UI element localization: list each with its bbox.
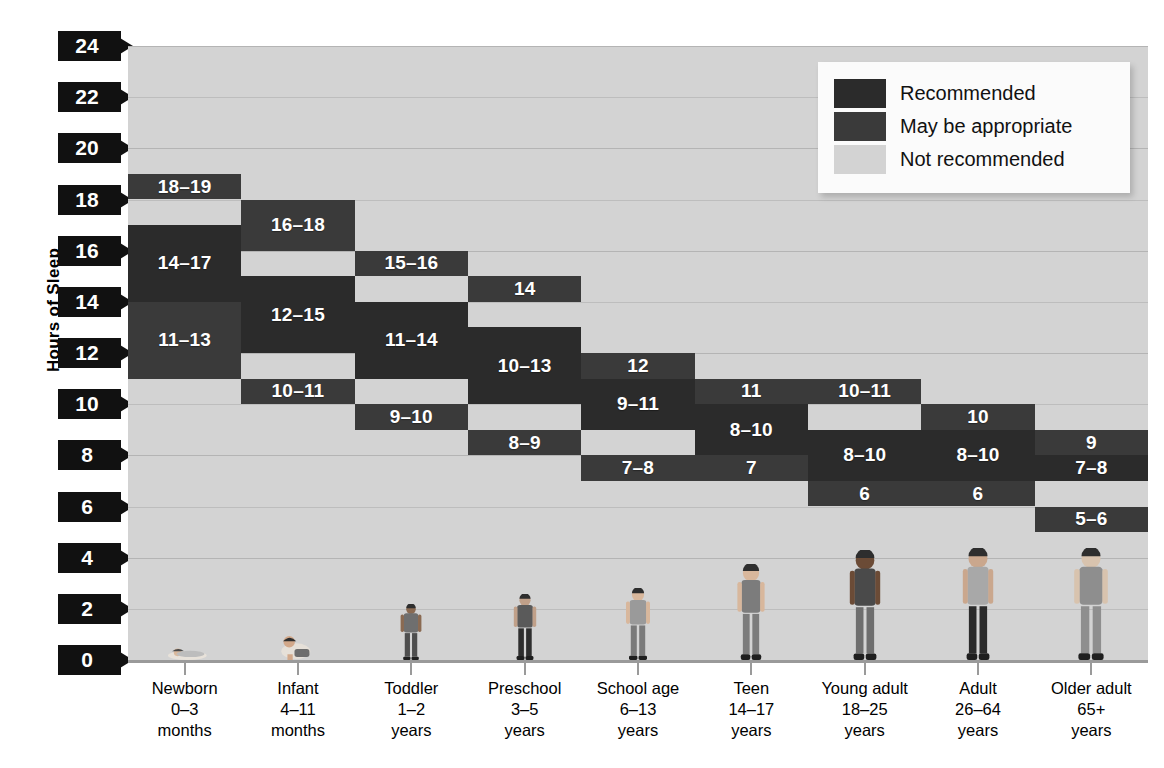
category-unit: years <box>355 720 468 741</box>
legend-item-not-recommended: Not recommended <box>834 145 1114 174</box>
y-axis-tick-18: 18 <box>58 185 120 215</box>
category-name: Older adult <box>1035 678 1148 699</box>
category-unit: years <box>921 720 1034 741</box>
bar-segment: 10–11 <box>241 379 354 405</box>
swatch-recommended-icon <box>834 79 886 108</box>
bar-segment: 8–9 <box>468 430 581 456</box>
bar-column: 129–117–8 <box>581 46 694 660</box>
crawling-infant-figure <box>276 634 320 660</box>
y-axis-tick-24: 24 <box>58 31 120 61</box>
older-adult-man-figure <box>1070 548 1112 660</box>
swatch-not-recommended-icon <box>834 145 886 174</box>
category-unit: years <box>695 720 808 741</box>
legend-label-may-be-appropriate: May be appropriate <box>900 115 1072 138</box>
bar-segment: 10–13 <box>468 327 581 404</box>
legend-item-may-be-appropriate: May be appropriate <box>834 112 1114 141</box>
bar-segment: 7 <box>695 455 808 481</box>
bar-segment: 11–13 <box>128 302 241 379</box>
swatch-may-be-appropriate-icon <box>834 112 886 141</box>
category-name: Preschool <box>468 678 581 699</box>
bar-segment: 8–10 <box>808 430 921 481</box>
category-age: 6–13 <box>581 699 694 720</box>
bar-segment: 11 <box>695 379 808 405</box>
bar-segment: 9 <box>1035 430 1148 456</box>
school-age-child-figure <box>623 588 653 660</box>
y-axis-tick-8: 8 <box>58 440 120 470</box>
x-axis-tick <box>1090 661 1092 675</box>
category-unit: years <box>468 720 581 741</box>
bar-column: 1410–138–9 <box>468 46 581 660</box>
teen-girl-figure <box>734 564 768 660</box>
bar-segment: 8–10 <box>921 430 1034 481</box>
category-unit: months <box>128 720 241 741</box>
category-name: School age <box>581 678 694 699</box>
category-age: 3–5 <box>468 699 581 720</box>
bar-column: 15–1611–149–10 <box>355 46 468 660</box>
y-axis-tick-14: 14 <box>58 287 120 317</box>
bar-segment: 5–6 <box>1035 507 1148 533</box>
bar-segment: 15–16 <box>355 251 468 277</box>
sleep-recommendations-chart: Hours of Sleep 242220181614121086420 18–… <box>0 0 1164 768</box>
preschool-child-figure <box>511 594 539 660</box>
category-name: Teen <box>695 678 808 699</box>
legend: Recommended May be appropriate Not recom… <box>818 62 1130 193</box>
x-axis-tick <box>410 661 412 675</box>
category-unit: years <box>808 720 921 741</box>
bar-column: 18–1914–1711–13 <box>128 46 241 660</box>
bar-segment: 11–14 <box>355 302 468 379</box>
category-name: Infant <box>241 678 354 699</box>
category-name: Toddler <box>355 678 468 699</box>
category-unit: years <box>581 720 694 741</box>
x-axis-tick <box>524 661 526 675</box>
y-axis-tick-0: 0 <box>58 645 120 675</box>
x-axis-tick <box>750 661 752 675</box>
bar-segment: 8–10 <box>695 404 808 455</box>
bar-segment: 9–11 <box>581 379 694 430</box>
y-axis-tick-6: 6 <box>58 492 120 522</box>
bar-segment: 10 <box>921 404 1034 430</box>
bar-column: 16–1812–1510–11 <box>241 46 354 660</box>
bar-segment: 9–10 <box>355 404 468 430</box>
toddler-figure <box>398 604 424 660</box>
legend-label-not-recommended: Not recommended <box>900 148 1065 171</box>
x-axis-label-preschool: Preschool3–5years <box>468 678 581 741</box>
bar-segment: 10–11 <box>808 379 921 405</box>
y-axis-tick-20: 20 <box>58 133 120 163</box>
bar-segment: 6 <box>808 481 921 507</box>
young-adult-man-figure <box>846 550 884 660</box>
adult-woman-figure <box>959 548 997 660</box>
category-name: Newborn <box>128 678 241 699</box>
bar-segment: 16–18 <box>241 200 354 251</box>
category-unit: months <box>241 720 354 741</box>
category-name: Adult <box>921 678 1034 699</box>
category-unit: years <box>1035 720 1148 741</box>
bar-segment: 7–8 <box>1035 455 1148 481</box>
x-axis-label-infant: Infant4–11months <box>241 678 354 741</box>
x-axis-tick <box>297 661 299 675</box>
category-name: Young adult <box>808 678 921 699</box>
x-axis-label-school-age: School age6–13years <box>581 678 694 741</box>
x-axis-tick <box>184 661 186 675</box>
y-axis-tick-22: 22 <box>58 82 120 112</box>
category-age: 65+ <box>1035 699 1148 720</box>
legend-label-recommended: Recommended <box>900 82 1036 105</box>
bar-segment: 18–19 <box>128 174 241 200</box>
category-age: 26–64 <box>921 699 1034 720</box>
bar-segment: 6 <box>921 481 1034 507</box>
bar-segment: 12–15 <box>241 276 354 353</box>
x-axis-tick <box>637 661 639 675</box>
x-axis-tick <box>977 661 979 675</box>
category-age: 1–2 <box>355 699 468 720</box>
category-age: 4–11 <box>241 699 354 720</box>
legend-item-recommended: Recommended <box>834 79 1114 108</box>
y-axis-tick-12: 12 <box>58 338 120 368</box>
x-axis-tick <box>864 661 866 675</box>
category-age: 18–25 <box>808 699 921 720</box>
sleeping-newborn-figure <box>162 644 208 660</box>
bar-segment: 7–8 <box>581 455 694 481</box>
y-axis-tick-4: 4 <box>58 543 120 573</box>
x-axis-label-newborn: Newborn0–3months <box>128 678 241 741</box>
category-age: 0–3 <box>128 699 241 720</box>
y-axis-tick-16: 16 <box>58 236 120 266</box>
bar-segment: 12 <box>581 353 694 379</box>
